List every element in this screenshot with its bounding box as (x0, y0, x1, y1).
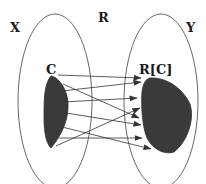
label-x: X (10, 20, 21, 35)
arrow (62, 82, 141, 91)
label-y: Y (185, 20, 196, 35)
subset-c-region (44, 76, 68, 148)
image-rc-region (142, 78, 192, 153)
arrow (60, 112, 141, 125)
arrow (63, 98, 137, 102)
arrow (58, 75, 141, 78)
label-c: C (46, 62, 56, 77)
label-r: R (98, 10, 109, 25)
relation-arrows (56, 75, 151, 149)
relation-diagram: X R Y C R[C] (0, 0, 206, 184)
label-rc: R[C] (139, 62, 172, 77)
